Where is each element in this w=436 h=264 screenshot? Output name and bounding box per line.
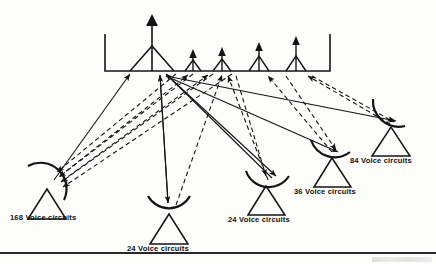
tower-36 [314,158,351,187]
downbeam-station-24r-solid [168,76,276,176]
tower-24-left [150,214,188,244]
satellite-small-antenna-2 [213,47,231,71]
uplink-168-dashed-a [60,75,188,176]
footer-divider [0,252,436,254]
satellite-link-diagram [0,0,436,264]
downlink-24-right-dashed [236,76,266,176]
uplink-beams [54,74,396,203]
ground-station-168 [28,163,67,219]
tower-84 [372,127,410,156]
satellite-payload [105,14,330,71]
downlink-36-dashed [286,76,336,150]
figure-root: 168 Voice circuits 24 Voice circuits 24 … [0,0,436,264]
station-label-168: 168 Voice circuits [10,214,76,222]
downlink-beams [57,74,394,205]
dish-arc-24-left [148,196,190,208]
satellite-small-antenna-1 [185,49,201,71]
ground-station-36 [311,140,351,187]
station-label-36: 36 Voice circuits [294,188,356,196]
station-label-84: 84 Voice circuits [350,157,412,165]
ground-station-24-left [148,196,190,244]
dish-arc-84 [373,99,405,127]
downlink-24-left [176,75,222,205]
downlink-84-dashed [312,76,394,122]
satellite-large-antenna [130,14,174,71]
station-label-24-right: 24 Voice circuits [228,216,290,224]
uplink-station-168 [54,74,130,180]
ground-station-84 [372,99,410,156]
downbeam-station-84-solid [166,76,396,121]
tower-24-right [248,186,285,215]
footer-artifact [372,257,432,262]
uplink-36-dashed [268,76,332,152]
satellite-small-antenna-3 [249,42,269,71]
satellite-small-antenna-4 [286,36,306,71]
downlink-168-d [63,74,232,187]
uplink-168-dashed-b [62,75,208,181]
